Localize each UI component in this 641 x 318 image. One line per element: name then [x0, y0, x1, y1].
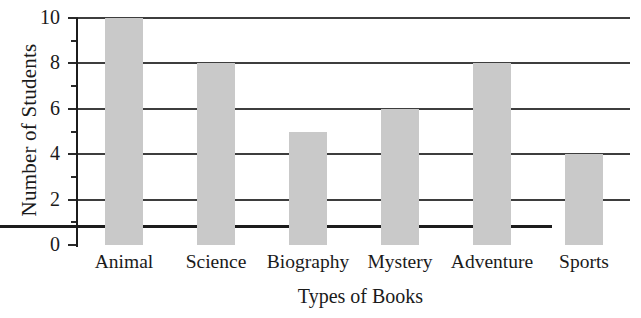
- x-axis-tick-label: Adventure: [446, 251, 538, 273]
- y-axis-tick-label: 2: [14, 189, 60, 209]
- y-axis-tick-label: 8: [14, 52, 60, 72]
- bar: [105, 18, 143, 245]
- x-axis-tick-label: Animal: [78, 251, 170, 273]
- gridline: [78, 199, 630, 201]
- y-axis-title: Number of Students: [16, 15, 42, 245]
- y-axis-tick-label: 10: [14, 7, 60, 27]
- x-axis-tick-label: Science: [170, 251, 262, 273]
- y-axis-tick-label: 4: [14, 143, 60, 163]
- bar: [565, 154, 603, 245]
- plot-area: [78, 18, 630, 245]
- gridline: [78, 17, 630, 19]
- y-axis-tick-label: 6: [14, 98, 60, 118]
- bar: [381, 109, 419, 245]
- x-axis-tick-label: Sports: [538, 251, 630, 273]
- x-axis-title-text: Types of Books: [298, 285, 423, 307]
- gridline: [78, 153, 630, 155]
- bar: [473, 63, 511, 245]
- y-axis-tick-label: 0: [14, 234, 60, 254]
- gridline: [78, 62, 630, 64]
- x-axis-tick-label: Mystery: [354, 251, 446, 273]
- gridline: [78, 108, 630, 110]
- bar: [289, 132, 327, 246]
- bar: [197, 63, 235, 245]
- x-axis-tick-label: Biography: [262, 251, 354, 273]
- bar-chart: Number of Students 1086420 AnimalScience…: [0, 0, 641, 318]
- x-axis-title: Types of Books: [0, 284, 641, 308]
